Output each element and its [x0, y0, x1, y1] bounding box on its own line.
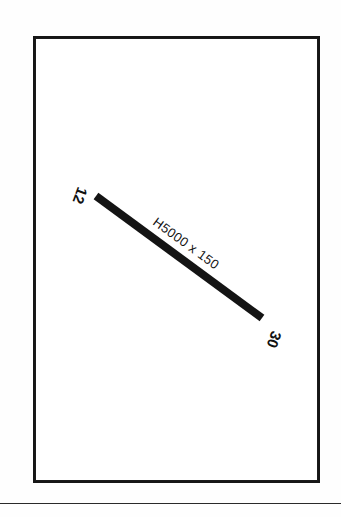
node-label-start: 12: [69, 185, 91, 206]
beam-member-line: [96, 196, 262, 318]
node-label-end: 30: [263, 329, 285, 350]
page-separator-rule: [0, 503, 341, 504]
node-label-30-group: 30: [263, 329, 285, 350]
node-label-12-group: 12: [69, 185, 91, 206]
beam-diagram-layer: 12 30 H5000 x 150: [0, 0, 341, 517]
drawing-page: 12 30 H5000 x 150: [0, 0, 341, 517]
